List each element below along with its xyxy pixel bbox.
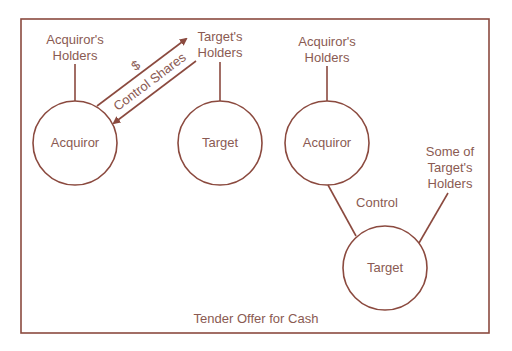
some-holders-link [419, 193, 448, 243]
target-label-left: Target [202, 135, 238, 151]
control-label: Control [356, 195, 398, 211]
diagram-caption: Tender Offer for Cash [194, 311, 319, 327]
frame-border [21, 19, 489, 333]
acquiror-label-left: Acquiror [51, 135, 99, 151]
targets-holders-label: Target'sHolders [197, 29, 242, 61]
target-label-right: Target [367, 260, 403, 276]
acquiror-label-right: Acquiror [303, 135, 351, 151]
acquirors-holders-label-left: Acquiror'sHolders [46, 32, 103, 64]
control-link [328, 185, 356, 236]
some-targets-holders-label: Some ofTarget'sHolders [426, 144, 474, 192]
acquirors-holders-label-right: Acquiror'sHolders [298, 34, 355, 66]
